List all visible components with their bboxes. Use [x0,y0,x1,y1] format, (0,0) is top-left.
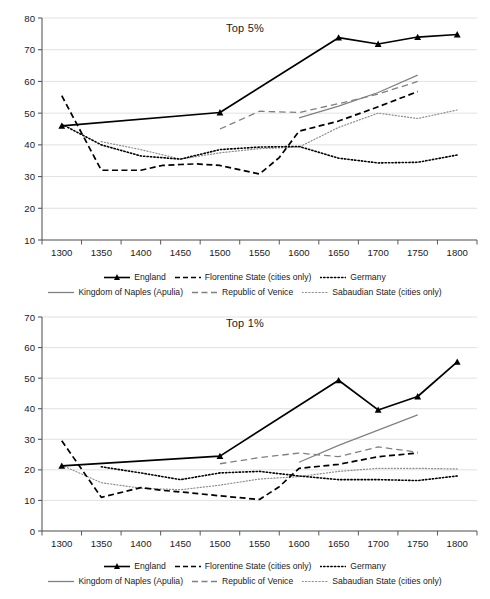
legend-row-2: Kingdom of Naples (Apulia) Republic of V… [0,574,490,589]
legend-label-england: England [134,273,166,282]
legend-top5: England Florentine State (cities only) G… [0,270,490,300]
legend-item-sabaudian-state[interactable]: Sabaudian State (cities only) [302,577,441,586]
svg-text:1600: 1600 [288,538,309,549]
legend-key-solid-marker-icon [104,562,130,571]
svg-text:1300: 1300 [51,247,72,258]
svg-text:1750: 1750 [407,538,428,549]
legend-label-republic-of-venice: Republic of Venice [222,577,293,586]
svg-text:70: 70 [24,312,35,323]
svg-text:1700: 1700 [367,247,388,258]
legend-label-florentine-state: Florentine State (cities only) [205,273,312,282]
svg-text:80: 80 [24,13,35,24]
legend-item-sabaudian-state[interactable]: Sabaudian State (cities only) [302,288,441,297]
legend-row-2: Kingdom of Naples (Apulia) Republic of V… [0,285,490,300]
svg-text:1400: 1400 [130,247,151,258]
legend-label-england: England [134,562,166,571]
legend-item-florentine-state[interactable]: Florentine State (cities only) [175,562,312,571]
legend-item-kingdom-of-naples[interactable]: Kingdom of Naples (Apulia) [48,288,183,297]
legend-key-dotted-heavy-icon [320,273,346,282]
svg-text:1750: 1750 [407,247,428,258]
svg-text:30: 30 [24,171,35,182]
svg-text:1350: 1350 [91,538,112,549]
chart-panel-top5: Top 5% 102030405060708013001350140014501… [0,0,490,305]
chart-figure: Top 5% 102030405060708013001350140014501… [0,0,490,599]
legend-item-england[interactable]: England [104,562,166,571]
svg-text:1700: 1700 [367,538,388,549]
legend-key-solid-thin-icon [48,577,74,586]
plot-area-top5: 1020304050607080130013501400145015001550… [0,0,490,270]
svg-text:60: 60 [24,76,35,87]
svg-text:1550: 1550 [249,247,270,258]
legend-key-dotted-light-icon [302,288,328,297]
svg-text:1800: 1800 [447,247,468,258]
legend-key-solid-thin-icon [48,288,74,297]
legend-item-republic-of-venice[interactable]: Republic of Venice [192,288,293,297]
svg-text:1800: 1800 [447,538,468,549]
svg-text:20: 20 [24,203,35,214]
legend-label-kingdom-of-naples: Kingdom of Naples (Apulia) [78,288,183,297]
legend-item-republic-of-venice[interactable]: Republic of Venice [192,577,293,586]
svg-text:30: 30 [24,434,35,445]
svg-text:1450: 1450 [170,538,191,549]
svg-text:1400: 1400 [130,538,151,549]
svg-text:1350: 1350 [91,247,112,258]
legend-key-dashed-gray-icon [192,577,218,586]
chart-panel-top1: Top 1% 010203040506070130013501400145015… [0,305,490,599]
svg-text:1600: 1600 [288,247,309,258]
legend-key-dashed-gray-icon [192,288,218,297]
svg-text:50: 50 [24,108,35,119]
svg-text:10: 10 [24,495,35,506]
legend-item-kingdom-of-naples[interactable]: Kingdom of Naples (Apulia) [48,577,183,586]
legend-key-dashed-heavy-icon [175,273,201,282]
svg-text:70: 70 [24,44,35,55]
svg-text:20: 20 [24,464,35,475]
svg-text:10: 10 [24,235,35,246]
legend-key-dotted-heavy-icon [320,562,346,571]
legend-row-1: England Florentine State (cities only) G… [0,559,490,574]
legend-item-england[interactable]: England [104,273,166,282]
legend-label-republic-of-venice: Republic of Venice [222,288,293,297]
legend-item-germany[interactable]: Germany [320,562,385,571]
legend-key-solid-marker-icon [104,273,130,282]
legend-item-florentine-state[interactable]: Florentine State (cities only) [175,273,312,282]
plot-area-top1: 0102030405060701300135014001450150015501… [0,305,490,561]
legend-label-germany: Germany [350,562,385,571]
svg-text:1650: 1650 [328,247,349,258]
legend-key-dotted-light-icon [302,577,328,586]
legend-label-sabaudian-state: Sabaudian State (cities only) [332,288,441,297]
svg-text:1450: 1450 [170,247,191,258]
svg-text:40: 40 [24,403,35,414]
legend-label-kingdom-of-naples: Kingdom of Naples (Apulia) [78,577,183,586]
legend-label-sabaudian-state: Sabaudian State (cities only) [332,577,441,586]
svg-text:1650: 1650 [328,538,349,549]
svg-text:1300: 1300 [51,538,72,549]
legend-item-germany[interactable]: Germany [320,273,385,282]
svg-text:1500: 1500 [209,538,230,549]
svg-text:1550: 1550 [249,538,270,549]
svg-text:60: 60 [24,342,35,353]
svg-text:1500: 1500 [209,247,230,258]
legend-label-florentine-state: Florentine State (cities only) [205,562,312,571]
legend-label-germany: Germany [350,273,385,282]
legend-key-dashed-heavy-icon [175,562,201,571]
svg-text:0: 0 [30,526,35,537]
legend-row-1: England Florentine State (cities only) G… [0,270,490,285]
svg-text:50: 50 [24,373,35,384]
svg-text:40: 40 [24,139,35,150]
legend-top1: England Florentine State (cities only) G… [0,559,490,589]
